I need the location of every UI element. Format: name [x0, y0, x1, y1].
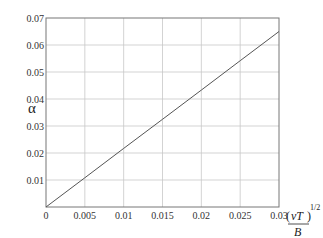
- x-tick-label: 0.005: [74, 210, 97, 221]
- x-label-numerator: νT: [291, 209, 304, 223]
- y-tick-label: 0.06: [27, 40, 45, 51]
- x-tick-label: 0.015: [151, 210, 174, 221]
- y-tick-labels: 0.010.020.030.040.050.060.07: [27, 13, 45, 186]
- line-chart: 00.0050.010.0150.020.0250.03 0.010.020.0…: [0, 0, 323, 238]
- y-tick-label: 0.05: [27, 67, 45, 78]
- y-tick-label: 0.01: [27, 175, 45, 186]
- x-tick-label: 0.02: [193, 210, 211, 221]
- x-label-paren-open: (: [286, 209, 290, 223]
- x-tick-labels: 00.0050.010.0150.020.0250.03: [44, 210, 288, 221]
- y-tick-label: 0.07: [27, 13, 45, 24]
- x-label-denominator: B: [294, 225, 302, 238]
- y-tick-label: 0.02: [27, 148, 45, 159]
- x-tick-label: 0.01: [115, 210, 133, 221]
- x-axis-label: ( νT ) B 1/2: [286, 203, 320, 238]
- y-tick-label: 0.03: [27, 121, 45, 132]
- y-axis-label: α: [28, 100, 36, 116]
- x-tick-label: 0: [44, 210, 49, 221]
- grid-lines: [46, 18, 279, 207]
- x-label-exponent: 1/2: [310, 203, 320, 212]
- x-tick-label: 0.025: [229, 210, 252, 221]
